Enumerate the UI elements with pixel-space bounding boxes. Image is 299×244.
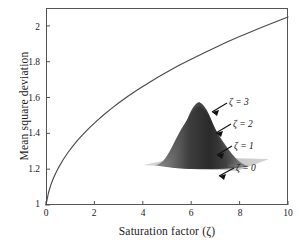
y-axis-title: Mean square deviation (18, 16, 30, 196)
inset-label-zeta0: ζ = 0 (236, 163, 256, 173)
x-tick-label: 0 (34, 209, 58, 219)
x-tick-label: 10 (276, 209, 299, 219)
x-tick-label: 6 (179, 209, 203, 219)
x-tick-label: 4 (131, 209, 155, 219)
figure: 2 1.8 1.6 1.4 1.2 1 0 2 4 6 8 10 Saturat… (0, 0, 299, 244)
inset-label-zeta1: ζ = 1 (234, 141, 254, 151)
inset-label-zeta2: ζ = 2 (233, 119, 253, 129)
x-tick-label: 8 (228, 209, 252, 219)
x-tick-label: 2 (82, 209, 106, 219)
x-axis-title: Saturation factor (ζ) (46, 225, 288, 237)
inset-label-zeta3: ζ = 3 (229, 97, 249, 107)
